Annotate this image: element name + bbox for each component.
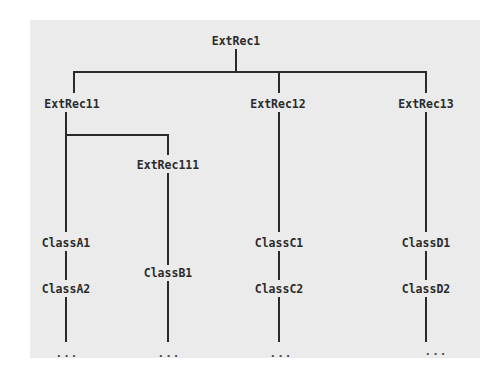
connector <box>425 112 427 232</box>
node-classd1: ClassD1 <box>402 236 450 250</box>
node-extrec12: ExtRec12 <box>250 97 305 111</box>
continuation-ellipsis: ... <box>158 348 181 360</box>
node-extrec13: ExtRec13 <box>398 97 453 111</box>
connector <box>235 49 237 71</box>
continuation-ellipsis: ... <box>270 348 293 360</box>
connector <box>167 173 169 265</box>
connector <box>65 297 67 342</box>
connector <box>278 71 280 93</box>
continuation-ellipsis: ... <box>56 348 79 360</box>
connector <box>167 281 169 342</box>
connector <box>65 112 67 232</box>
connector <box>73 71 75 93</box>
connector <box>73 71 426 73</box>
connector <box>425 251 427 280</box>
node-classc1: ClassC1 <box>255 236 303 250</box>
continuation-ellipsis: ... <box>425 346 448 358</box>
node-extrec111: ExtRec111 <box>137 158 199 172</box>
node-classc2: ClassC2 <box>255 282 303 296</box>
node-classb1: ClassB1 <box>144 266 192 280</box>
connector <box>278 297 280 342</box>
connector <box>278 112 280 232</box>
connector <box>167 134 169 155</box>
node-extrec11: ExtRec11 <box>44 97 99 111</box>
connector <box>425 297 427 342</box>
node-classa1: ClassA1 <box>42 236 90 250</box>
node-extrec1: ExtRec1 <box>212 34 260 48</box>
connector <box>65 251 67 280</box>
connector <box>425 71 427 93</box>
node-classd2: ClassD2 <box>402 282 450 296</box>
connector <box>278 251 280 280</box>
node-classa2: ClassA2 <box>42 282 90 296</box>
connector <box>65 134 169 136</box>
